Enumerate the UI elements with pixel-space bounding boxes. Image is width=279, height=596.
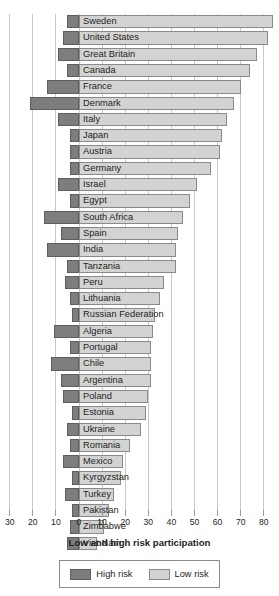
chart-row: Germany xyxy=(0,161,279,177)
bar-low-risk xyxy=(79,292,160,305)
bar-low-risk xyxy=(79,308,155,321)
bar-low-risk xyxy=(79,162,211,175)
axis-tick xyxy=(194,510,195,516)
axis-tick xyxy=(240,510,241,516)
axis-tick xyxy=(148,510,149,516)
bar-low-risk xyxy=(79,145,220,158)
chart-row: Estonia xyxy=(0,405,279,421)
axis-tick-label: 20 xyxy=(28,517,38,527)
bar-high-risk xyxy=(70,292,79,305)
bar-low-risk xyxy=(79,64,250,77)
chart-row: Egypt xyxy=(0,193,279,209)
bar-low-risk xyxy=(79,374,151,387)
axis-tick-label: 40 xyxy=(167,517,177,527)
bar-low-risk xyxy=(79,260,176,273)
bar-high-risk xyxy=(65,276,79,289)
axis-tick-label: 60 xyxy=(213,517,223,527)
bar-high-risk xyxy=(58,178,79,191)
chart-row: Tanzania xyxy=(0,259,279,275)
bar-low-risk xyxy=(79,341,151,354)
chart-row: France xyxy=(0,79,279,95)
bar-low-risk xyxy=(79,390,148,403)
bar-high-risk xyxy=(70,341,79,354)
chart-row: Chile xyxy=(0,356,279,372)
chart-row: Argentina xyxy=(0,373,279,389)
axis-tick xyxy=(217,510,218,516)
axis-tick-label: 80 xyxy=(259,517,269,527)
bar-high-risk xyxy=(70,145,79,158)
bar-high-risk xyxy=(63,390,79,403)
bar-high-risk xyxy=(44,211,79,224)
axis-tick-label: 30 xyxy=(5,517,15,527)
x-axis: 30201001020304050607080 xyxy=(0,510,279,532)
bar-high-risk xyxy=(72,471,79,484)
legend-label: High risk xyxy=(96,569,132,579)
bar-low-risk xyxy=(79,129,222,142)
bar-high-risk xyxy=(70,439,79,452)
chart-row: Ukraine xyxy=(0,422,279,438)
risk-participation-chart: SwedenUnited StatesGreat BritainCanadaFr… xyxy=(0,0,279,596)
legend-entry: High risk xyxy=(70,569,132,580)
axis-tick xyxy=(55,510,56,516)
bar-low-risk xyxy=(79,423,141,436)
bar-high-risk xyxy=(70,129,79,142)
chart-row: Great Britain xyxy=(0,47,279,63)
legend-label: Low risk xyxy=(175,569,209,579)
bar-low-risk xyxy=(79,97,234,110)
bar-low-risk xyxy=(79,243,176,256)
chart-row: Canada xyxy=(0,63,279,79)
bar-low-risk xyxy=(79,357,151,370)
bar-high-risk xyxy=(58,48,79,61)
bar-high-risk xyxy=(30,97,79,110)
bar-high-risk xyxy=(67,423,79,436)
bar-high-risk xyxy=(63,455,79,468)
chart-row: Algeria xyxy=(0,324,279,340)
bar-low-risk xyxy=(79,471,121,484)
chart-legend: High riskLow risk xyxy=(59,560,220,588)
bar-high-risk xyxy=(51,357,79,370)
chart-row: Lithuania xyxy=(0,291,279,307)
axis-tick-label: 20 xyxy=(120,517,130,527)
bar-low-risk xyxy=(79,439,130,452)
axis-tick-label: 30 xyxy=(144,517,154,527)
x-axis-title: Low and high risk participation xyxy=(0,537,279,548)
bar-low-risk xyxy=(79,455,123,468)
bar-high-risk xyxy=(67,260,79,273)
bar-high-risk xyxy=(72,406,79,419)
chart-row: Austria xyxy=(0,144,279,160)
bar-low-risk xyxy=(79,113,227,126)
bar-high-risk xyxy=(47,243,79,256)
bar-high-risk xyxy=(67,15,79,28)
axis-tick xyxy=(263,510,264,516)
axis-tick xyxy=(171,510,172,516)
bar-high-risk xyxy=(47,80,79,93)
bar-high-risk xyxy=(61,227,79,240)
bar-low-risk xyxy=(79,325,153,338)
bar-low-risk xyxy=(79,15,273,28)
axis-tick-label: 50 xyxy=(190,517,200,527)
chart-row: Russian Federation xyxy=(0,307,279,323)
chart-row: Peru xyxy=(0,275,279,291)
bar-high-risk xyxy=(58,113,79,126)
chart-row: Japan xyxy=(0,128,279,144)
legend-swatch-low-icon xyxy=(149,569,170,580)
bar-low-risk xyxy=(79,488,114,501)
bar-low-risk xyxy=(79,211,183,224)
bar-high-risk xyxy=(72,308,79,321)
axis-tick xyxy=(9,510,10,516)
chart-row: Israel xyxy=(0,177,279,193)
chart-row: Turkey xyxy=(0,487,279,503)
chart-row: United States xyxy=(0,30,279,46)
plot-area: SwedenUnited StatesGreat BritainCanadaFr… xyxy=(0,14,279,510)
bar-low-risk xyxy=(79,276,164,289)
chart-row: India xyxy=(0,242,279,258)
axis-tick-label: 10 xyxy=(97,517,107,527)
chart-row: Italy xyxy=(0,112,279,128)
chart-row: Sweden xyxy=(0,14,279,30)
bar-low-risk xyxy=(79,406,146,419)
bar-high-risk xyxy=(70,194,79,207)
bar-low-risk xyxy=(79,178,197,191)
bar-low-risk xyxy=(79,80,241,93)
axis-tick-label: 10 xyxy=(51,517,61,527)
bar-low-risk xyxy=(79,31,268,44)
